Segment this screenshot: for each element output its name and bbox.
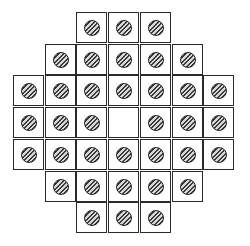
peg-icon[interactable] xyxy=(148,179,164,195)
board-hole-filled[interactable] xyxy=(140,139,171,170)
peg-icon[interactable] xyxy=(116,83,132,99)
board-hole-filled[interactable] xyxy=(172,171,203,202)
board-hole-filled[interactable] xyxy=(76,139,107,170)
solitaire-board xyxy=(13,12,237,234)
peg-icon[interactable] xyxy=(180,179,196,195)
peg-icon[interactable] xyxy=(84,83,100,99)
peg-icon[interactable] xyxy=(21,147,37,163)
peg-icon[interactable] xyxy=(84,20,100,36)
board-hole-filled[interactable] xyxy=(13,75,44,106)
peg-icon[interactable] xyxy=(148,20,164,36)
peg-icon[interactable] xyxy=(180,83,196,99)
board-hole-filled[interactable] xyxy=(203,139,234,170)
peg-icon[interactable] xyxy=(53,83,69,99)
board-hole-filled[interactable] xyxy=(140,202,171,233)
board-hole-filled[interactable] xyxy=(76,107,107,138)
peg-icon[interactable] xyxy=(116,210,132,226)
board-hole-filled[interactable] xyxy=(13,107,44,138)
peg-icon[interactable] xyxy=(116,147,132,163)
board-hole-filled[interactable] xyxy=(203,75,234,106)
peg-icon[interactable] xyxy=(116,179,132,195)
peg-icon[interactable] xyxy=(53,52,69,68)
peg-icon[interactable] xyxy=(180,115,196,131)
board-hole-filled[interactable] xyxy=(76,171,107,202)
peg-icon[interactable] xyxy=(84,52,100,68)
board-hole-filled[interactable] xyxy=(76,44,107,75)
board-hole-filled[interactable] xyxy=(108,75,139,106)
board-hole-filled[interactable] xyxy=(108,44,139,75)
board-hole-filled[interactable] xyxy=(108,12,139,43)
board-hole-filled[interactable] xyxy=(108,171,139,202)
peg-icon[interactable] xyxy=(148,52,164,68)
peg-icon[interactable] xyxy=(180,52,196,68)
board-hole-filled[interactable] xyxy=(45,44,76,75)
board-hole-filled[interactable] xyxy=(108,139,139,170)
board-hole-filled[interactable] xyxy=(45,139,76,170)
peg-icon[interactable] xyxy=(116,52,132,68)
board-hole-filled[interactable] xyxy=(140,44,171,75)
board-hole-filled[interactable] xyxy=(76,12,107,43)
peg-icon[interactable] xyxy=(211,83,227,99)
peg-icon[interactable] xyxy=(148,83,164,99)
board-hole-filled[interactable] xyxy=(45,171,76,202)
board-hole-filled[interactable] xyxy=(172,75,203,106)
board-hole-filled[interactable] xyxy=(108,202,139,233)
board-hole-filled[interactable] xyxy=(140,107,171,138)
peg-icon[interactable] xyxy=(21,115,37,131)
board-hole-filled[interactable] xyxy=(140,171,171,202)
peg-icon[interactable] xyxy=(53,179,69,195)
peg-icon[interactable] xyxy=(84,179,100,195)
board-hole-filled[interactable] xyxy=(172,107,203,138)
peg-icon[interactable] xyxy=(53,147,69,163)
board-hole-filled[interactable] xyxy=(172,44,203,75)
board-hole-filled[interactable] xyxy=(13,139,44,170)
board-hole-empty[interactable] xyxy=(108,107,139,138)
peg-icon[interactable] xyxy=(148,210,164,226)
peg-icon[interactable] xyxy=(211,115,227,131)
peg-icon[interactable] xyxy=(53,115,69,131)
board-hole-filled[interactable] xyxy=(76,202,107,233)
board-hole-filled[interactable] xyxy=(140,12,171,43)
peg-icon[interactable] xyxy=(21,83,37,99)
peg-icon[interactable] xyxy=(211,147,227,163)
peg-icon[interactable] xyxy=(84,115,100,131)
board-hole-filled[interactable] xyxy=(45,107,76,138)
board-hole-filled[interactable] xyxy=(203,107,234,138)
peg-icon[interactable] xyxy=(84,210,100,226)
peg-icon[interactable] xyxy=(148,147,164,163)
peg-icon[interactable] xyxy=(116,20,132,36)
board-hole-filled[interactable] xyxy=(76,75,107,106)
peg-icon[interactable] xyxy=(84,147,100,163)
peg-icon[interactable] xyxy=(148,115,164,131)
board-hole-filled[interactable] xyxy=(45,75,76,106)
peg-icon[interactable] xyxy=(180,147,196,163)
board-hole-filled[interactable] xyxy=(172,139,203,170)
board-hole-filled[interactable] xyxy=(140,75,171,106)
